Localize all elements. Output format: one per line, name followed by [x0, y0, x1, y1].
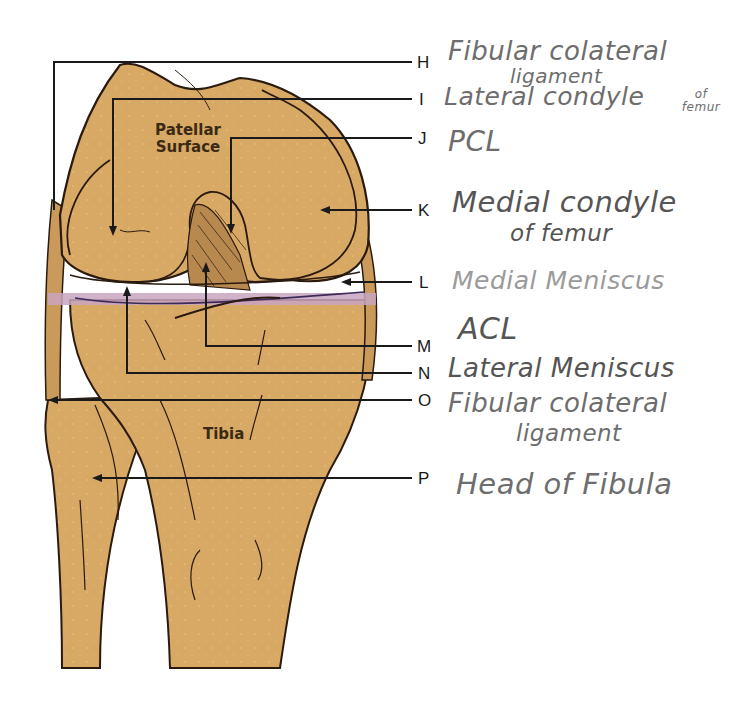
answer-i-line1: Lateral condyle	[444, 84, 644, 109]
tibia-label: Tibia	[203, 426, 244, 443]
callout-letter-k: K	[418, 202, 429, 219]
answer-o-line2: ligament	[516, 422, 622, 445]
patellar-label-line1: Patellar	[148, 122, 228, 139]
answer-k-line1: Medial condyle	[452, 188, 677, 217]
patellar-label-line2: Surface	[148, 139, 228, 156]
callout-letter-l: L	[419, 274, 428, 291]
callout-letter-p: P	[418, 470, 429, 487]
callout-letter-h: H	[417, 54, 429, 71]
callout-letter-o: O	[418, 392, 431, 409]
answer-p: Head of Fibula	[456, 470, 673, 499]
answer-h-line1: Fibular colateral	[448, 38, 667, 64]
answer-n: Lateral Meniscus	[448, 355, 675, 381]
answer-i-line2: of femur	[676, 88, 726, 114]
fibula-bone	[45, 398, 140, 668]
answer-o-line1: Fibular colateral	[448, 390, 667, 416]
answer-k-line2: of femur	[510, 222, 612, 245]
callout-letter-n: N	[418, 365, 430, 382]
knee-diagram: Patellar Surface Tibia H I J K L M N O P…	[0, 0, 747, 706]
answer-j: PCL	[448, 128, 502, 156]
answer-m: ACL	[458, 314, 518, 344]
callout-letter-j: J	[418, 130, 427, 147]
answer-l: Medial Meniscus	[452, 268, 665, 293]
callout-letter-m: M	[417, 338, 431, 355]
patellar-surface-label: Patellar Surface	[148, 122, 228, 157]
callout-letter-i: I	[419, 91, 424, 108]
